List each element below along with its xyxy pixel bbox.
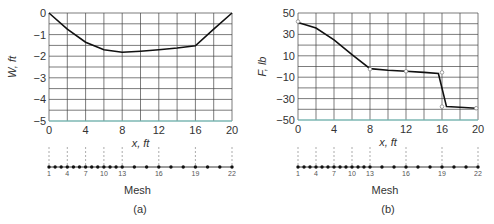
x-tick-label: 8 bbox=[119, 124, 125, 136]
x-axis-label: x, ft bbox=[378, 136, 398, 148]
mesh-label: Mesh bbox=[372, 184, 399, 196]
mesh-node bbox=[452, 165, 455, 168]
y-tick-label: 0 bbox=[40, 7, 46, 19]
mesh-node bbox=[404, 165, 407, 168]
y-tick-label: −5 bbox=[33, 115, 46, 127]
data-marker bbox=[440, 71, 444, 75]
grid bbox=[49, 13, 232, 121]
mesh-node-label: 10 bbox=[348, 170, 356, 177]
x-tick-label: 12 bbox=[153, 124, 165, 136]
data-marker bbox=[296, 20, 300, 24]
x-tick-label: 4 bbox=[83, 124, 89, 136]
mesh-node bbox=[428, 165, 431, 168]
mesh-node bbox=[320, 165, 323, 168]
mesh-node bbox=[350, 165, 353, 168]
x-tick-label: 0 bbox=[295, 123, 301, 135]
mesh-diagram: 1471013161922Mesh bbox=[296, 147, 482, 196]
figure: 0−1−2−3−4−5048121620x, ftW, ft1471013161… bbox=[0, 0, 494, 224]
x-tick-label: 8 bbox=[367, 123, 373, 135]
x-tick-label: 12 bbox=[400, 123, 412, 135]
data-marker bbox=[474, 106, 478, 110]
mesh-node bbox=[392, 165, 395, 168]
mesh-node bbox=[308, 165, 311, 168]
mesh-node bbox=[133, 165, 136, 168]
mesh-node bbox=[102, 165, 105, 168]
x-axis-ticks: 048121620 bbox=[295, 123, 484, 135]
chart-panel-b: 503010−10−30−50048121620x, ftF, lb147101… bbox=[256, 7, 484, 215]
mesh-node bbox=[356, 165, 359, 168]
mesh-node-label: 10 bbox=[100, 170, 108, 177]
mesh-node bbox=[476, 165, 479, 168]
mesh-node bbox=[332, 165, 335, 168]
y-tick-label: −1 bbox=[33, 29, 46, 41]
y-tick-label: 50 bbox=[283, 7, 295, 19]
mesh-node bbox=[169, 165, 172, 168]
mesh-node-label: 13 bbox=[118, 170, 126, 177]
mesh-node-label: 4 bbox=[65, 170, 69, 177]
mesh-node bbox=[78, 165, 81, 168]
mesh-node bbox=[114, 165, 117, 168]
mesh-node bbox=[90, 165, 93, 168]
mesh-node-label: 1 bbox=[47, 170, 51, 177]
x-tick-label: 16 bbox=[436, 123, 448, 135]
mesh-node-label: 16 bbox=[155, 170, 163, 177]
mesh-label: Mesh bbox=[124, 184, 151, 196]
mesh-node bbox=[326, 165, 329, 168]
y-axis-label: W, ft bbox=[6, 55, 18, 78]
y-axis-ticks: 0−1−2−3−4−5 bbox=[33, 7, 46, 127]
grid bbox=[298, 13, 478, 120]
mesh-node-label: 16 bbox=[402, 170, 410, 177]
mesh-node-label: 22 bbox=[228, 170, 236, 177]
mesh-node-label: 1 bbox=[296, 170, 300, 177]
mesh-node-label: 22 bbox=[474, 170, 482, 177]
mesh-node bbox=[157, 165, 160, 168]
mesh-node bbox=[440, 165, 443, 168]
y-tick-label: −10 bbox=[276, 71, 295, 83]
panel-caption: (a) bbox=[133, 203, 146, 215]
mesh-node bbox=[96, 165, 99, 168]
mesh-node bbox=[53, 165, 56, 168]
data-marker bbox=[368, 67, 372, 71]
y-axis-label: F, lb bbox=[256, 57, 268, 77]
mesh-node bbox=[206, 165, 209, 168]
mesh-node bbox=[182, 165, 185, 168]
mesh-node bbox=[230, 165, 233, 168]
mesh-node bbox=[302, 165, 305, 168]
mesh-node bbox=[344, 165, 347, 168]
mesh-node bbox=[314, 165, 317, 168]
mesh-node bbox=[368, 165, 371, 168]
x-tick-label: 20 bbox=[472, 123, 484, 135]
mesh-node-label: 7 bbox=[84, 170, 88, 177]
mesh-node bbox=[66, 165, 69, 168]
x-tick-label: 16 bbox=[189, 124, 201, 136]
mesh-node bbox=[338, 165, 341, 168]
x-axis-label: x, ft bbox=[131, 137, 151, 149]
mesh-node bbox=[84, 165, 87, 168]
mesh-node bbox=[47, 165, 50, 168]
y-tick-label: 10 bbox=[283, 50, 295, 62]
x-tick-label: 0 bbox=[46, 124, 52, 136]
panel-caption: (b) bbox=[381, 203, 394, 215]
x-tick-label: 4 bbox=[331, 123, 337, 135]
mesh-node bbox=[380, 165, 383, 168]
mesh-node bbox=[59, 165, 62, 168]
x-tick-label: 20 bbox=[226, 124, 238, 136]
y-tick-label: −4 bbox=[33, 93, 46, 105]
data-marker bbox=[440, 105, 444, 109]
mesh-node-label: 7 bbox=[332, 170, 336, 177]
chart-panel-a: 0−1−2−3−4−5048121620x, ftW, ft1471013161… bbox=[6, 7, 238, 215]
mesh-diagram: 1471013161922Mesh bbox=[47, 147, 236, 196]
mesh-node bbox=[218, 165, 221, 168]
mesh-node-label: 19 bbox=[192, 170, 200, 177]
mesh-node-label: 19 bbox=[438, 170, 446, 177]
y-tick-label: −2 bbox=[33, 50, 46, 62]
mesh-node bbox=[464, 165, 467, 168]
y-tick-label: −3 bbox=[33, 72, 46, 84]
y-tick-label: −30 bbox=[276, 93, 295, 105]
x-axis-ticks: 048121620 bbox=[46, 124, 238, 136]
data-marker bbox=[404, 70, 408, 74]
mesh-node-label: 4 bbox=[314, 170, 318, 177]
mesh-node bbox=[108, 165, 111, 168]
y-tick-label: −50 bbox=[276, 114, 295, 126]
mesh-node bbox=[194, 165, 197, 168]
